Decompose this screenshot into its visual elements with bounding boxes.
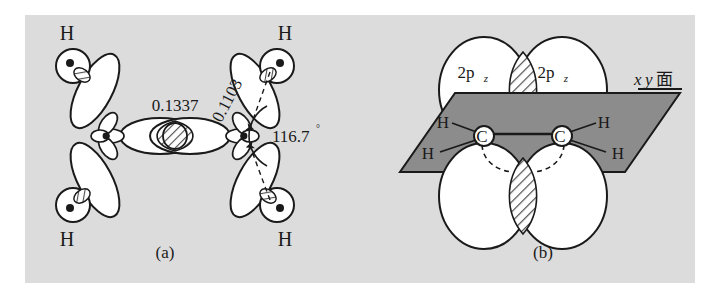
label-h-bottom-left: H xyxy=(60,228,74,250)
label-h-left-lower: H xyxy=(422,144,434,163)
left-carbon-nucleus xyxy=(103,133,110,140)
label-orbital-right-subscript: z xyxy=(563,72,569,84)
label-xy-plane-x: x xyxy=(633,70,642,89)
label-cc-bond-length: 0.1337 xyxy=(152,96,199,115)
h-electron-dot-bottom-left xyxy=(66,204,74,212)
label-h-top-left: H xyxy=(60,22,74,44)
label-h-left-upper: H xyxy=(437,113,449,132)
label-orbital-right-base: 2p xyxy=(538,63,555,82)
chemistry-figure: H H H H 0.1337 0.1103 116.7 ° (a) xyxy=(0,0,720,297)
label-h-right-lower: H xyxy=(612,144,624,163)
label-bond-angle-value: 116.7 xyxy=(272,127,310,146)
label-xy-plane-kanji: 面 xyxy=(656,70,673,89)
h-electron-dot-top-right xyxy=(276,59,284,67)
label-xy-plane-y: y xyxy=(643,70,653,89)
figure-root: H H H H 0.1337 0.1103 116.7 ° (a) xyxy=(0,0,720,297)
label-orbital-left-subscript: z xyxy=(483,72,489,84)
label-h-right-upper: H xyxy=(598,113,610,132)
label-carbon-left: C xyxy=(476,127,487,146)
caption-panel-a: (a) xyxy=(156,243,175,262)
degree-symbol-icon: ° xyxy=(316,123,320,134)
right-carbon-nucleus xyxy=(241,133,248,140)
label-carbon-right: C xyxy=(554,127,565,146)
h-electron-dot-bottom-right xyxy=(276,204,284,212)
label-h-top-right: H xyxy=(278,22,292,44)
caption-panel-b: (b) xyxy=(533,243,553,262)
label-h-bottom-right: H xyxy=(278,228,292,250)
h-electron-dot-top-left xyxy=(66,59,74,67)
cc-overlap-lens xyxy=(163,123,187,149)
label-orbital-left-base: 2p xyxy=(458,63,475,82)
